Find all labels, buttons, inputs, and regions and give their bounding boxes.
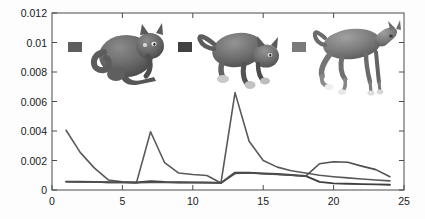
y-tick-label-2: 0.004 — [21, 125, 47, 137]
y-tick-label-0: 0 — [41, 184, 47, 196]
line-chart: 0 0.002 0.004 0.006 0.008 0.01 0.012 0 — [0, 0, 425, 219]
y-tick-label-3: 0.006 — [21, 96, 47, 108]
x-tick-label-0: 0 — [49, 195, 55, 207]
y-tick-label-6: 0.012 — [21, 7, 47, 19]
x-tick-label-5: 25 — [398, 195, 410, 207]
legend-swatch-horse-trotting[interactable] — [292, 42, 306, 52]
legend-swatch-cat-prowling[interactable] — [178, 42, 192, 52]
figure-canvas: 0 0.002 0.004 0.006 0.008 0.01 0.012 0 — [0, 0, 425, 219]
x-tick-label-4: 20 — [328, 195, 340, 207]
y-tick-label-1: 0.002 — [21, 155, 47, 167]
x-tick-label-2: 10 — [187, 195, 199, 207]
y-tick-label-4: 0.008 — [21, 66, 47, 78]
y-tick-label-5: 0.01 — [27, 37, 48, 49]
legend-swatch-cat-sitting[interactable] — [68, 42, 82, 52]
x-tick-label-1: 5 — [119, 195, 125, 207]
x-tick-label-3: 15 — [257, 195, 269, 207]
